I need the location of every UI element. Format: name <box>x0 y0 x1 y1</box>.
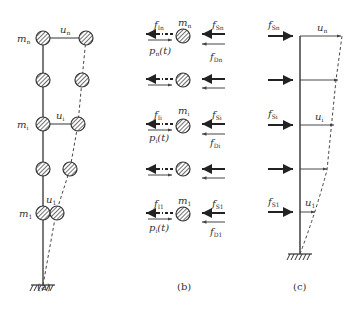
label-f-Dn: fDn <box>209 51 223 63</box>
label-f-D1: fD1 <box>209 226 222 238</box>
label-m-1: m1 <box>19 208 32 220</box>
label-m-1: m1 <box>178 195 191 207</box>
label-u-i: ui <box>56 110 64 122</box>
mass-i-icon <box>176 119 190 133</box>
label-f-Di: fDi <box>209 137 221 149</box>
mass-1-icon <box>36 206 50 220</box>
caption-b: (b) <box>177 281 191 292</box>
mass-icon <box>176 162 190 176</box>
panel-a: mn un mi ui m1 u1 (a) <box>17 24 93 292</box>
ground-support-icon <box>287 254 312 260</box>
displaced-mass-icon <box>63 162 77 176</box>
mass-icon <box>36 73 50 87</box>
caption-a: (a) <box>37 281 51 292</box>
label-f-S1: fS1 <box>211 198 224 210</box>
free-body-row <box>146 73 225 88</box>
label-f-Si: fSi <box>211 109 222 121</box>
panel-b: fIn mn fSn pn(t) fDn fIi mi fSi pi(t) fD… <box>146 17 225 292</box>
label-m-i: mi <box>178 105 189 117</box>
mdof-diagram: mn un mi ui m1 u1 (a) <box>0 0 356 311</box>
label-p-i: pi(t) <box>149 132 169 144</box>
label-f-In: fIn <box>153 19 164 31</box>
label-u-1: u1 <box>46 194 56 206</box>
label-f-Sn: fSn <box>211 19 224 31</box>
panel-c: fSn un fSi ui fS1 u1 (c) <box>267 19 342 292</box>
label-f-S1: fS1 <box>267 196 280 208</box>
label-m-n: mn <box>17 33 30 45</box>
label-p-1: pi(t) <box>149 222 169 234</box>
label-f-I1: fI1 <box>153 198 164 210</box>
displaced-mass-icon <box>79 31 93 45</box>
free-body-row <box>146 162 225 178</box>
mass-n-icon <box>176 29 190 43</box>
mass-n-icon <box>36 31 50 45</box>
label-u-n: un <box>60 24 70 36</box>
label-f-Si: fSi <box>267 108 278 120</box>
caption-c: (c) <box>293 281 307 292</box>
mass-1-icon <box>176 207 190 221</box>
label-p-n: pn(t) <box>149 45 171 57</box>
mass-i-icon <box>36 117 50 131</box>
label-u-n: un <box>317 22 327 34</box>
label-f-Sn: fSn <box>267 19 280 31</box>
label-m-i: mi <box>17 119 28 131</box>
label-u-1: u1 <box>305 197 315 209</box>
label-u-i: ui <box>315 111 323 123</box>
label-f-Ii: fIi <box>153 109 162 121</box>
mass-icon <box>36 162 50 176</box>
mass-icon <box>176 73 190 87</box>
label-m-n: mn <box>178 17 191 29</box>
displaced-mass-icon <box>75 73 89 87</box>
deformed-shape <box>300 36 342 254</box>
displaced-mass-icon <box>71 117 85 131</box>
displaced-mass-icon <box>50 206 64 220</box>
free-body-row-n <box>146 29 225 44</box>
